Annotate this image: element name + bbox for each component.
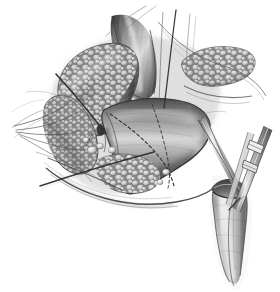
illustration-canvas: [0, 0, 280, 292]
surgical-illustration-figure: Surgical exposure of vessel with longitu…: [0, 0, 280, 292]
